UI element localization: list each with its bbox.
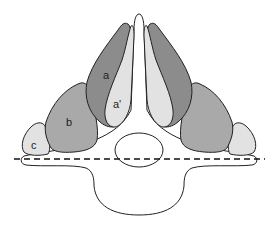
spinal-canal: [115, 133, 163, 167]
label-c: c: [31, 139, 37, 151]
label-b: b: [66, 116, 72, 128]
vertebra-muscle-diagram: a a' b c: [0, 0, 278, 227]
label-a: a: [103, 69, 110, 81]
label-a-prime: a': [113, 98, 121, 110]
